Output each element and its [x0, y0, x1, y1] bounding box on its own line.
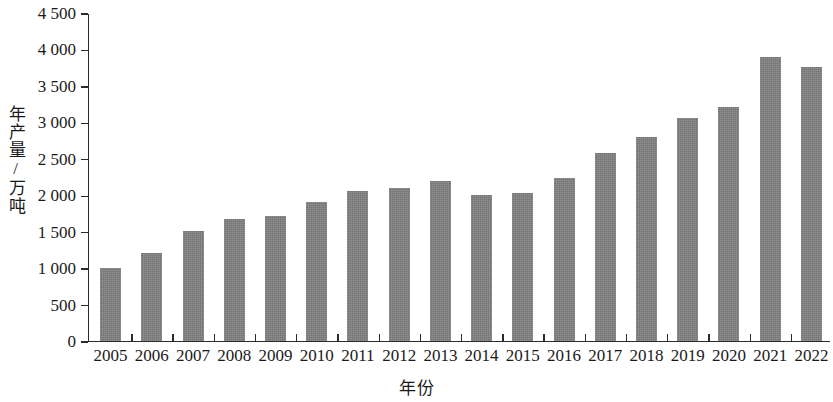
x-axis-tick	[626, 334, 627, 342]
bar	[718, 107, 739, 340]
y-axis-tick-label: 3 500	[38, 77, 76, 97]
x-axis-tick	[708, 334, 709, 342]
y-axis-tick: 0	[81, 341, 88, 342]
x-axis-tick	[667, 334, 668, 342]
x-axis-tick-label: 2015	[502, 346, 543, 366]
bar	[636, 137, 657, 340]
x-axis-tick	[379, 334, 380, 342]
bar	[100, 268, 121, 341]
y-axis-tick-label: 0	[68, 332, 77, 352]
y-axis-tick: 1 500	[81, 232, 88, 233]
x-axis-tick	[750, 334, 751, 342]
x-axis-tick-label: 2008	[214, 346, 255, 366]
plot-area: 05001 0001 5002 0002 5003 0003 5004 0004…	[88, 14, 830, 342]
y-axis-line	[88, 14, 89, 342]
y-axis-tick-label: 4 000	[38, 40, 76, 60]
bar	[430, 181, 451, 341]
x-axis-tick-label: 2009	[255, 346, 296, 366]
y-axis-tick-label: 3 000	[38, 113, 76, 133]
y-axis-tick: 3 000	[81, 123, 88, 124]
x-axis-tick	[461, 334, 462, 342]
bar-chart: 年产量/万吨 05001 0001 5002 0002 5003 0003 50…	[0, 0, 833, 402]
x-axis-title: 年份	[0, 374, 833, 399]
bar	[595, 153, 616, 341]
x-axis-tick-label: 2012	[379, 346, 420, 366]
x-axis-tick	[585, 334, 586, 342]
x-axis-tick	[214, 334, 215, 342]
x-axis-tick-label: 2018	[626, 346, 667, 366]
bar	[554, 178, 575, 341]
y-axis-tick: 500	[81, 305, 88, 306]
y-axis-tick: 4 500	[81, 13, 88, 14]
bar	[347, 191, 368, 340]
x-axis-tick	[420, 334, 421, 342]
x-axis-tick	[296, 334, 297, 342]
y-axis-title: 年产量/万吨	[2, 105, 28, 215]
bar	[224, 219, 245, 341]
x-axis-tick	[337, 334, 338, 342]
y-axis-tick-label: 2 000	[38, 186, 76, 206]
bar	[471, 195, 492, 341]
y-axis-tick: 2 500	[81, 159, 88, 160]
x-axis-tick	[172, 334, 173, 342]
y-axis-tick: 1 000	[81, 268, 88, 269]
x-axis-tick	[791, 334, 792, 342]
x-axis-tick-label: 2020	[708, 346, 749, 366]
x-axis-tick	[543, 334, 544, 342]
x-axis-tick-label: 2014	[461, 346, 502, 366]
bar	[183, 231, 204, 341]
x-axis-tick-label: 2022	[791, 346, 832, 366]
bar	[760, 57, 781, 341]
x-axis-tick-label: 2016	[543, 346, 584, 366]
x-axis-line	[88, 341, 830, 342]
x-axis-tick-label: 2017	[585, 346, 626, 366]
x-axis-tick-label: 2013	[420, 346, 461, 366]
x-axis-tick-label: 2005	[90, 346, 131, 366]
y-axis-tick: 2 000	[81, 196, 88, 197]
x-axis-tick	[502, 334, 503, 342]
y-axis-tick-label: 4 500	[38, 4, 76, 24]
bar	[677, 118, 698, 341]
y-axis-tick: 4 000	[81, 50, 88, 51]
y-axis-tick: 3 500	[81, 86, 88, 87]
y-axis-tick-label: 1 000	[38, 259, 76, 279]
x-axis-tick-label: 2021	[750, 346, 791, 366]
x-axis-tick	[131, 334, 132, 342]
bar	[306, 202, 327, 340]
x-axis-tick-label: 2019	[667, 346, 708, 366]
bar	[141, 253, 162, 340]
x-axis-tick-label: 2007	[172, 346, 213, 366]
bar	[389, 188, 410, 341]
y-axis-tick-label: 1 500	[38, 223, 76, 243]
x-axis-tick	[255, 334, 256, 342]
bar	[265, 216, 286, 341]
y-axis-tick-label: 500	[51, 296, 77, 316]
x-axis-tick-label: 2006	[131, 346, 172, 366]
x-axis-tick-label: 2011	[337, 346, 378, 366]
bar	[801, 67, 822, 341]
x-axis-tick-label: 2010	[296, 346, 337, 366]
bar	[512, 193, 533, 341]
y-axis-tick-label: 2 500	[38, 150, 76, 170]
